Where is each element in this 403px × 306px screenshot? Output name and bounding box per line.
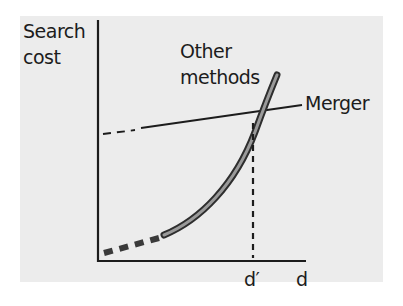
y-axis-label-line2: cost xyxy=(23,46,85,68)
curve-label-line2: methods xyxy=(180,66,260,88)
x-axis-label: d xyxy=(296,268,308,290)
curve-label: Other methods xyxy=(180,40,260,88)
crossover-label: d′ xyxy=(244,268,259,290)
curve-label-line1: Other xyxy=(180,40,260,62)
merger-line xyxy=(103,105,302,134)
merger-label: Merger xyxy=(305,92,369,114)
other-methods-curve xyxy=(104,75,277,253)
y-axis-label-line1: Search xyxy=(23,20,85,42)
y-axis-label: Search cost xyxy=(23,20,85,68)
